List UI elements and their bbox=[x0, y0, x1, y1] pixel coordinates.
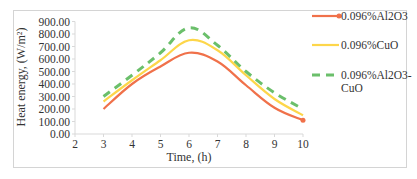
x-tick-label: 2 bbox=[72, 138, 78, 150]
x-tick-label: 9 bbox=[272, 138, 278, 150]
y-tick-label: 600.00 bbox=[38, 53, 70, 65]
legend-item-label: 0.096%CuO bbox=[341, 39, 398, 51]
x-tick-label: 6 bbox=[186, 138, 192, 150]
series-lines bbox=[104, 28, 306, 123]
legend: 0.096%Al2O30.096%CuO0.096%Al2O3-CuO bbox=[312, 10, 412, 94]
x-tick-label: 3 bbox=[101, 138, 107, 150]
legend-item-label-cont: CuO bbox=[341, 82, 363, 94]
y-tick-label: 100.00 bbox=[38, 116, 70, 128]
y-tick-label: 0.00 bbox=[50, 128, 70, 140]
y-axis-title: Heat energy, (W/m²) bbox=[14, 28, 28, 127]
x-tick-label: 5 bbox=[158, 138, 164, 150]
y-tick-label: 800.00 bbox=[38, 28, 70, 40]
y-axis: 0.00100.00200.00300.00400.00500.00600.00… bbox=[38, 16, 75, 141]
x-axis-title: Time, (h) bbox=[167, 150, 212, 164]
y-tick-label: 700.00 bbox=[38, 41, 70, 53]
y-tick-label: 200.00 bbox=[38, 103, 70, 115]
x-tick-label: 10 bbox=[297, 138, 309, 150]
legend-item-label: 0.096%Al2O3 bbox=[341, 10, 408, 22]
series-line-0 bbox=[104, 53, 304, 121]
y-tick-label: 900.00 bbox=[38, 16, 70, 28]
x-axis: 2345678910 bbox=[72, 134, 309, 150]
y-tick-label: 300.00 bbox=[38, 91, 70, 103]
y-tick-label: 500.00 bbox=[38, 66, 70, 78]
x-tick-label: 7 bbox=[215, 138, 221, 150]
series-line-1 bbox=[104, 40, 304, 115]
y-tick-label: 400.00 bbox=[38, 78, 70, 90]
series-marker bbox=[301, 118, 306, 123]
legend-item-label: 0.096%Al2O3- bbox=[341, 69, 412, 81]
x-tick-label: 8 bbox=[243, 138, 249, 150]
x-tick-label: 4 bbox=[129, 138, 135, 150]
line-chart: 0.00100.00200.00300.00400.00500.00600.00… bbox=[0, 0, 417, 179]
